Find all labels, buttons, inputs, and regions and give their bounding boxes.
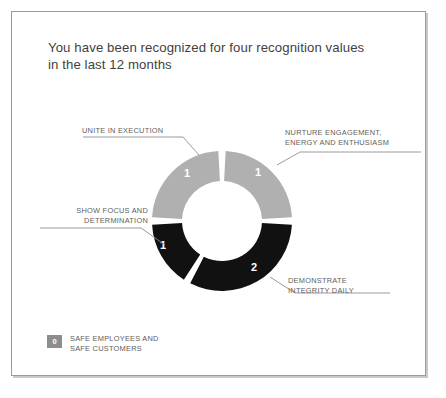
- page-root: You have been recognized for four recogn…: [0, 0, 446, 398]
- legend-label: SAFE EMPLOYEES AND SAFE CUSTOMERS: [70, 334, 159, 354]
- callout-unite-in-execution: UNITE IN EXECUTION: [82, 126, 202, 136]
- recognition-card: You have been recognized for four recogn…: [11, 11, 426, 376]
- legend-badge-count: 0: [47, 335, 62, 348]
- page-title: You have been recognized for four recogn…: [48, 39, 378, 73]
- callout-show-focus-determination: SHOW FOCUS AND DETERMINATION: [38, 206, 148, 225]
- callout-demonstrate-integrity-daily: DEMONSTRATE INTEGRITY DAILY: [288, 276, 398, 295]
- callout-nurture-engagement: NURTURE ENGAGEMENT, ENERGY AND ENTHUSIAS…: [285, 128, 420, 147]
- legend-safe-employees: 0 SAFE EMPLOYEES AND SAFE CUSTOMERS: [47, 334, 159, 354]
